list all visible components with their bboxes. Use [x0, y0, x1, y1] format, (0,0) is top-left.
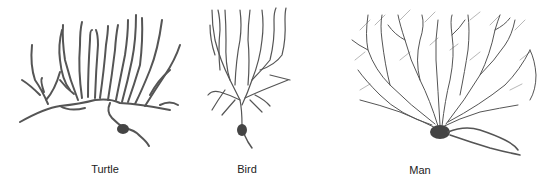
bird-purkinje-cell-drawing	[190, 0, 310, 150]
man-label: Man	[395, 164, 445, 176]
man-neuron-panel	[340, 0, 546, 160]
turtle-purkinje-cell-drawing	[0, 0, 190, 150]
man-soma	[430, 125, 450, 139]
bird-label: Bird	[222, 163, 272, 175]
turtle-soma	[117, 124, 129, 134]
bird-soma	[237, 124, 247, 136]
turtle-neuron-panel	[0, 0, 190, 150]
man-purkinje-cell-drawing	[340, 0, 546, 160]
bird-neuron-panel	[190, 0, 310, 150]
turtle-label: Turtle	[80, 163, 130, 175]
